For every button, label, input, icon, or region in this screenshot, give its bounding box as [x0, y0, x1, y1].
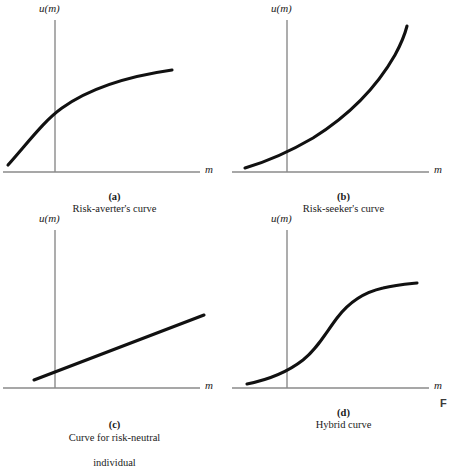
panel-c: u(m) m (c) Curve for risk-neutral indivi…: [0, 212, 229, 424]
concave-increasing-curve: [8, 70, 172, 165]
x-axis-label: m: [434, 163, 442, 175]
panel-a: u(m) m (a) Risk-averter's curve: [0, 0, 229, 200]
panel-c-caption: (c) Curve for risk-neutral individual: [0, 394, 229, 470]
y-axis-label: u(m): [271, 2, 292, 14]
y-axis-label: u(m): [39, 2, 60, 14]
panel-c-caption-letter: (c): [109, 419, 121, 430]
panel-d-caption: (d) Hybrid curve: [229, 394, 458, 432]
panel-c-caption-text-line2: individual: [0, 457, 229, 470]
figure-caption-truncated: F c e c: [440, 376, 458, 424]
panel-d-caption-text: Hybrid curve: [316, 419, 372, 430]
panel-b: u(m) m (b) Risk-seeker's curve: [229, 0, 458, 200]
y-axis-label: u(m): [39, 212, 60, 224]
panel-d-plot: [229, 212, 458, 424]
panel-d-caption-letter: (d): [337, 407, 350, 418]
figure-caption-line-1: F: [440, 398, 458, 409]
y-axis-label: u(m): [271, 212, 292, 224]
panel-a-caption: (a) Risk-averter's curve: [0, 178, 229, 216]
x-axis-label: m: [205, 379, 213, 391]
panel-c-caption-text: Curve for risk-neutral: [69, 432, 161, 443]
panel-b-caption-letter: (b): [337, 191, 350, 202]
straight-line-curve: [34, 315, 204, 380]
panel-b-caption: (b) Risk-seeker's curve: [229, 178, 458, 216]
panel-c-plot: [0, 212, 229, 424]
convex-increasing-curve: [245, 26, 407, 168]
panel-a-plot: [0, 0, 229, 200]
panel-a-caption-letter: (a): [108, 191, 120, 202]
s-shaped-curve: [247, 283, 417, 384]
panel-b-plot: [229, 0, 458, 200]
panel-d: u(m) m (d) Hybrid curve: [229, 212, 458, 424]
x-axis-label: m: [205, 163, 213, 175]
